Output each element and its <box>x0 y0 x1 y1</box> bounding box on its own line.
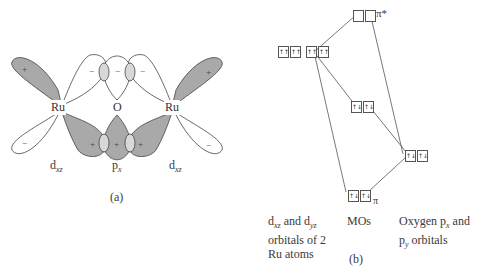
pi-label: π <box>373 194 378 208</box>
orbital-box: ↑↑ <box>318 46 329 58</box>
panel-a-caption: (a) <box>110 190 123 204</box>
sign-plus: + <box>22 64 27 74</box>
orbital-box: ↑↓ <box>417 150 428 162</box>
ru-d-orbitals-level: ↑↑ ↑↑ ↑↑ ↑↑ <box>278 46 329 58</box>
orbital-box: ↑↓ <box>348 190 359 202</box>
sign-minus: − <box>115 66 120 76</box>
sign-plus: + <box>206 67 211 77</box>
orbital-label-center: px <box>112 158 122 177</box>
oxygen-p-level: ↑↓ ↑↓ <box>405 150 428 162</box>
pi-star-level <box>353 10 376 22</box>
ru-right-lower-right-lobe <box>172 110 222 154</box>
atom-ru-left: Ru <box>50 100 66 115</box>
orbital-label-right: dxz <box>169 158 182 177</box>
ru-left-lower-right-lobe <box>62 112 106 157</box>
pi-level: ↑↓ ↑↓ <box>348 190 371 202</box>
sign-plus: + <box>90 139 95 149</box>
orbital-label-left: dxz <box>50 158 63 177</box>
orbital-box: ↑↑ <box>306 46 317 58</box>
pi-star-label: π* <box>376 6 387 20</box>
ru-right-upper-left-lobe <box>128 55 172 105</box>
panel-b-caption: (b) <box>349 252 363 266</box>
orbital-box: ↑↓ <box>405 150 416 162</box>
orbital-box <box>365 10 376 22</box>
mos-column-label: MOs <box>347 214 371 228</box>
orbital-box: ↑↓ <box>363 101 374 113</box>
sign-plus: + <box>114 139 119 149</box>
orbital-box: ↑↑ <box>290 46 301 58</box>
overlap-region <box>125 63 135 81</box>
sign-minus: − <box>89 66 94 76</box>
orbital-box <box>353 10 364 22</box>
ru-right-lower-left-lobe <box>128 112 172 157</box>
sign-minus: − <box>22 138 27 148</box>
oxygen-orbitals-column-label: Oxygen px and py orbitals <box>399 214 470 252</box>
ru-left-lower-left-lobe <box>12 110 62 154</box>
atom-ru-right: Ru <box>164 100 180 115</box>
sign-plus: + <box>138 139 143 149</box>
ru-orbitals-column-label: dxz and dyz orbitals of 2 Ru atoms <box>268 214 326 261</box>
sign-minus: − <box>140 66 145 76</box>
overlap-region <box>99 134 109 152</box>
orbital-box: ↑↓ <box>351 101 362 113</box>
orbital-box: ↑↑ <box>278 46 289 58</box>
ru-left-upper-right-lobe <box>62 55 106 105</box>
atom-oxygen: O <box>112 100 123 115</box>
overlap-region <box>125 134 135 152</box>
sign-minus: − <box>206 140 211 150</box>
orbital-box: ↑↓ <box>360 190 371 202</box>
overlap-region <box>99 63 109 81</box>
nonbonding-level: ↑↓ ↑↓ <box>351 101 374 113</box>
